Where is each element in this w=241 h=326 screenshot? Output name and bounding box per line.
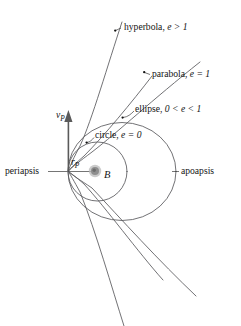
parabola-label: parabola, e = 1 — [152, 69, 210, 79]
diagram-canvas — [0, 0, 241, 326]
velocity-label: vP — [56, 110, 65, 122]
hyperbola-label: hyperbola, e > 1 — [124, 22, 188, 32]
parabola-marker-dot — [143, 71, 145, 73]
hyperbola-marker-dot — [114, 29, 116, 31]
ellipse-marker-dot — [121, 116, 123, 118]
periapsis-radius-label: rP — [71, 157, 79, 169]
velocity-label-subscript: P — [60, 114, 65, 123]
velocity-vector-arrowhead — [64, 110, 72, 122]
hyperbola-leader-line — [116, 28, 122, 31]
parabola-leader-line — [145, 73, 151, 75]
parabola-label-name: parabola — [152, 68, 185, 79]
central-body-label-text: B — [104, 169, 110, 180]
parabola-orbit-path — [68, 62, 200, 296]
central-body-core — [93, 169, 96, 172]
central-body-label: B — [104, 170, 110, 181]
circle-marker-dot — [85, 141, 87, 143]
ellipse-leader-line — [123, 111, 134, 118]
ellipse-label-name: ellipse — [135, 103, 160, 114]
periapsis-label: periapsis — [5, 166, 39, 176]
hyperbola-label-name: hyperbola — [124, 21, 162, 32]
ellipse-label-condition: 0 < e < 1 — [165, 103, 201, 114]
orbit-diagram: hyperbola, e > 1 parabola, e = 1 ellipse… — [0, 0, 241, 326]
parabola-label-condition: e = 1 — [190, 68, 210, 79]
periapsis-radius-subscript: P — [75, 161, 80, 170]
apoapsis-label: apoapsis — [181, 166, 214, 176]
circle-label-name: circle — [95, 129, 116, 140]
circle-label-condition: e = 0 — [121, 129, 141, 140]
circle-label: circle, e = 0 — [95, 130, 141, 140]
hyperbola-label-condition: e > 1 — [167, 21, 187, 32]
circle-leader-line — [87, 138, 94, 143]
ellipse-label: ellipse, 0 < e < 1 — [135, 104, 201, 114]
